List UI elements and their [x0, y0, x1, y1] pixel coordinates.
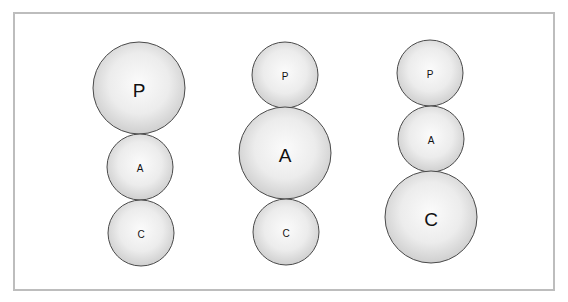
circle-label: C: [282, 228, 289, 239]
circle-p-large: P: [93, 42, 185, 134]
circle-c-small: C: [108, 200, 174, 266]
circle-c-large: C: [385, 171, 477, 263]
circle-a-large: A: [239, 107, 331, 199]
column-3: PAC: [385, 40, 477, 263]
column-1: PAC: [93, 42, 185, 266]
pac-circles-diagram: PACPACPAC: [0, 0, 568, 302]
circle-label: C: [137, 229, 144, 240]
circle-label: A: [137, 163, 144, 174]
circle-label: P: [282, 71, 289, 82]
circle-p-small: P: [397, 40, 463, 106]
circle-p-small: P: [252, 42, 318, 108]
circle-label: A: [428, 135, 435, 146]
circle-label: C: [424, 209, 438, 230]
circle-a-small: A: [398, 106, 464, 172]
circle-c-small: C: [253, 199, 319, 265]
column-2: PAC: [239, 42, 331, 265]
circle-label: P: [133, 80, 146, 101]
circle-label: A: [279, 145, 292, 166]
circle-label: P: [427, 69, 434, 80]
circle-a-small: A: [107, 134, 173, 200]
